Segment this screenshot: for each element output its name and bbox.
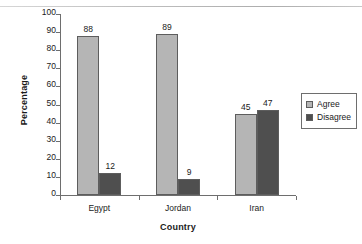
plot-area: 88128994547: [60, 14, 296, 195]
y-axis-title: Percentage: [19, 45, 29, 155]
bar-value-label: 89: [153, 22, 181, 32]
y-axis-tick-label: 50: [47, 99, 56, 108]
y-axis-tick-label: 60: [47, 80, 56, 89]
legend-item-disagree: Disagree: [306, 111, 351, 124]
x-axis-tick-mark: [60, 196, 61, 200]
legend-item-agree: Agree: [306, 98, 351, 111]
x-axis-tick-mark: [139, 196, 140, 200]
y-axis-tick-label: 0: [51, 189, 56, 198]
legend-swatch-agree-icon: [306, 101, 313, 108]
x-axis-title: Country: [60, 222, 296, 232]
y-axis-tick-label: 10: [47, 171, 56, 180]
bar-egypt-disagree: [99, 173, 121, 195]
bar-value-label: 47: [254, 98, 282, 108]
legend-swatch-disagree-icon: [306, 114, 313, 121]
chart-legend: Agree Disagree: [301, 93, 357, 129]
x-axis-category-label: Jordan: [138, 203, 218, 213]
y-axis-tick-label: 30: [47, 135, 56, 144]
y-axis-tick-label: 80: [47, 44, 56, 53]
y-axis-tick-label: 100: [42, 8, 56, 17]
y-axis-tick-label: 40: [47, 117, 56, 126]
bar-iran-disagree: [257, 110, 279, 195]
y-axis-tick-label: 90: [47, 26, 56, 35]
x-axis-line: [60, 195, 296, 196]
y-axis-tick-label: 70: [47, 62, 56, 71]
bar-value-label: 88: [74, 24, 102, 34]
x-axis-tick-mark: [296, 196, 297, 200]
legend-label-agree: Agree: [317, 100, 340, 109]
legend-label-disagree: Disagree: [317, 113, 351, 122]
bar-iran-agree: [235, 114, 257, 195]
bar-jordan-disagree: [178, 179, 200, 195]
x-axis-category-label: Egypt: [59, 203, 139, 213]
grouped-bar-chart: Percentage 0102030405060708090100 881289…: [0, 0, 362, 244]
x-axis-category-label: Iran: [217, 203, 297, 213]
bar-value-label: 12: [96, 161, 124, 171]
x-axis-tick-mark: [217, 196, 218, 200]
bar-value-label: 9: [175, 167, 203, 177]
y-axis-tick-label: 20: [47, 153, 56, 162]
